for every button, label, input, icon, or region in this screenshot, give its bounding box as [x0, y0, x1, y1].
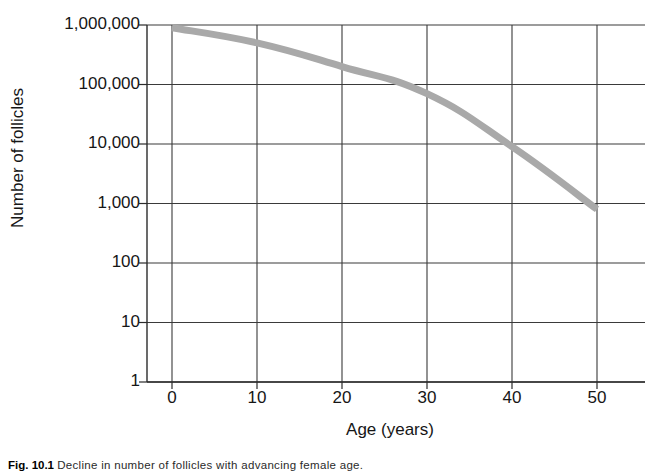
figure-caption: Fig. 10.1 Decline in number of follicles…	[8, 458, 658, 472]
y-axis-title: Number of follicles	[8, 58, 28, 258]
x-tick-label: 20	[312, 388, 372, 408]
x-tick-label: 40	[482, 388, 542, 408]
y-tick-label: 100	[30, 252, 140, 272]
follicle-count-curve	[172, 28, 597, 210]
figure-caption-text: Decline in number of follicles with adva…	[57, 459, 363, 471]
y-tick-label: 1,000	[30, 193, 140, 213]
x-tick-label: 50	[567, 388, 627, 408]
y-tick-label: 1	[30, 371, 140, 391]
y-tick-label: 1,000,000	[30, 14, 140, 34]
figure-panel: Number of follicles 1,000,000100,00010,0…	[0, 0, 664, 473]
y-tick-label: 100,000	[30, 74, 140, 94]
y-axis-tickmarks	[139, 25, 147, 382]
x-axis-title: Age (years)	[260, 420, 520, 440]
x-tick-label: 30	[397, 388, 457, 408]
x-tick-label: 10	[227, 388, 287, 408]
figure-number: Fig. 10.1	[8, 459, 54, 471]
y-tick-label: 10	[30, 312, 140, 332]
y-tick-label: 10,000	[30, 133, 140, 153]
x-tick-label: 0	[142, 388, 202, 408]
